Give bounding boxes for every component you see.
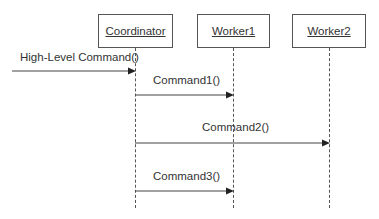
arrow-high-level-command <box>12 68 136 75</box>
arrow-command2 <box>135 140 330 147</box>
arrow-command3 <box>135 188 234 195</box>
message-arrows <box>0 0 379 219</box>
arrow-command1 <box>135 92 234 99</box>
